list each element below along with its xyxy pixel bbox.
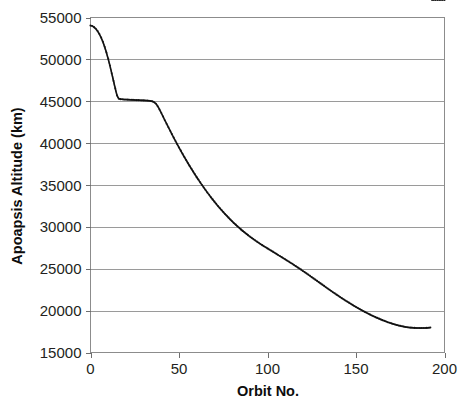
x-axis-title: Orbit No.: [237, 383, 299, 399]
x-tick-label-50: 50: [171, 360, 188, 377]
x-tick-label-100: 100: [255, 360, 280, 377]
y-tick-label-20000: 20000: [40, 302, 82, 319]
y-tick-labels-group: 1500020000250003000035000400004500050000…: [40, 9, 82, 361]
y-tick-label-25000: 25000: [40, 260, 82, 277]
y-tick-label-50000: 50000: [40, 51, 82, 68]
y-tick-label-35000: 35000: [40, 177, 82, 194]
y-axis-title: Apoapsis Altitude (km): [9, 107, 25, 265]
y-tick-label-30000: 30000: [40, 218, 82, 235]
data-point: [429, 326, 431, 328]
chart-canvas: 050100150200 150002000025000300003500040…: [0, 0, 466, 408]
x-tick-label-0: 0: [86, 360, 94, 377]
y-tick-label-45000: 45000: [40, 93, 82, 110]
y-tick-label-55000: 55000: [40, 9, 82, 26]
x-tick-label-200: 200: [432, 360, 457, 377]
x-tick-label-150: 150: [343, 360, 368, 377]
y-tick-label-15000: 15000: [40, 344, 82, 361]
y-tick-label-40000: 40000: [40, 135, 82, 152]
apoapsis-altitude-chart: 050100150200 150002000025000300003500040…: [0, 0, 466, 408]
